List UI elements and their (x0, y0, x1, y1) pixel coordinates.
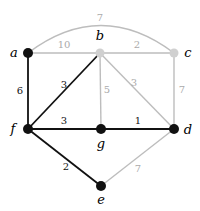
edge-weight-f-e: 2 (63, 161, 69, 172)
edge-weight-a-f: 6 (17, 85, 23, 96)
node-a (23, 48, 33, 58)
edge-f-e (28, 129, 101, 186)
node-label-b: b (96, 28, 104, 43)
edge-weight-a-b: 10 (58, 39, 71, 50)
node-g (96, 124, 106, 134)
edge-weight-d-e: 7 (135, 163, 141, 174)
edge-weight-b-c: 2 (134, 39, 140, 50)
node-b (96, 49, 105, 58)
node-f (23, 124, 33, 134)
graph-diagram: 7102537763312 abcdefg (0, 0, 200, 211)
node-label-e: e (97, 192, 105, 207)
node-label-a: a (10, 45, 18, 60)
node-e (96, 181, 106, 191)
node-label-c: c (184, 45, 192, 60)
node-label-g: g (97, 136, 105, 151)
edge-weight-b-d: 3 (131, 77, 137, 88)
node-label-f: f (10, 121, 18, 136)
node-c (170, 49, 179, 58)
edge-weight-b-f: 3 (61, 79, 67, 90)
edge-d-e (101, 129, 174, 186)
edge-weight-f-g: 3 (61, 115, 67, 126)
edge-weight-c-d: 7 (179, 84, 185, 95)
edge-b-g (100, 53, 101, 129)
edge-weight-b-g: 5 (104, 84, 110, 95)
node-label-d: d (184, 122, 192, 137)
node-d (169, 124, 179, 134)
edge-weight-a-c: 7 (97, 12, 103, 23)
edge-weight-g-d: 1 (135, 115, 141, 126)
